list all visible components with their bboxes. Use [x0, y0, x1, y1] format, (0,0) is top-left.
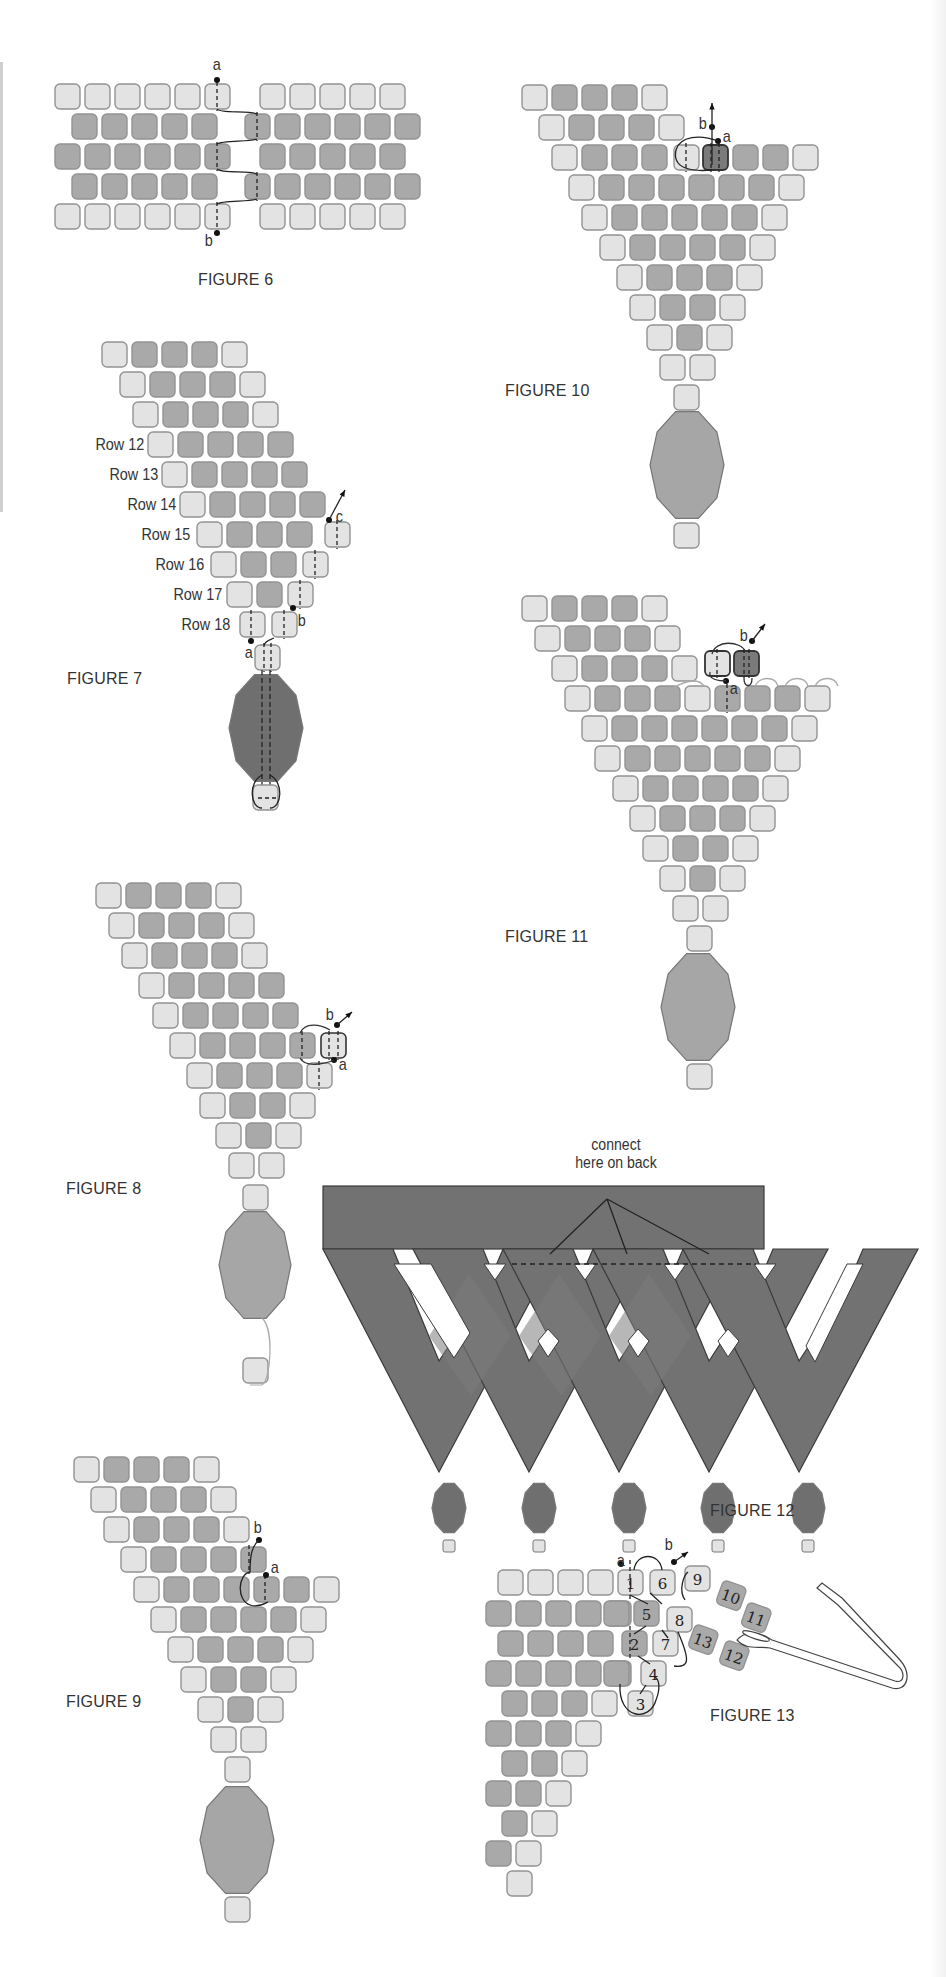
bead [228, 1697, 253, 1722]
bead [630, 806, 655, 831]
bead [271, 1667, 296, 1692]
bead [162, 174, 187, 199]
bead [750, 806, 775, 831]
fig12-callout-line1: connect [563, 1136, 669, 1154]
bead [642, 596, 667, 621]
bead [152, 943, 177, 968]
bead [227, 582, 252, 607]
bead [642, 716, 667, 741]
bead [703, 776, 728, 801]
bead [685, 686, 710, 711]
bead [194, 1457, 219, 1482]
bead [516, 1781, 541, 1806]
bead [211, 1727, 236, 1752]
bead [211, 1547, 236, 1572]
bead [516, 1721, 541, 1746]
bead [805, 686, 830, 711]
figure-8-label: FIGURE 8 [66, 1180, 141, 1198]
bead [254, 1577, 279, 1602]
bead [132, 114, 157, 139]
bead [655, 686, 680, 711]
fig13-point-a: a [617, 1552, 625, 1569]
bead [145, 144, 170, 169]
fig8-point-a: a [339, 1056, 347, 1073]
fig9-point-a: a [271, 1559, 279, 1576]
bead [582, 85, 607, 110]
bead [365, 114, 390, 139]
bead [558, 1570, 583, 1595]
bead [595, 746, 620, 771]
arrow-head-icon [681, 1552, 688, 1558]
drop-bead [200, 1787, 274, 1894]
bead [243, 1003, 268, 1028]
bead [305, 114, 330, 139]
bead [690, 866, 715, 891]
bead [273, 1003, 298, 1028]
bead [582, 145, 607, 170]
bead [229, 1153, 254, 1178]
bead [552, 145, 577, 170]
bead [96, 883, 121, 908]
bead [690, 235, 715, 260]
bead [102, 342, 127, 367]
bead [134, 1457, 159, 1482]
bead [225, 1897, 250, 1922]
bead [192, 114, 217, 139]
bead [277, 1063, 302, 1088]
bead [151, 1487, 176, 1512]
bead [643, 776, 668, 801]
bead [200, 1093, 225, 1118]
bead [486, 1721, 511, 1746]
bead [194, 1517, 219, 1542]
bead [85, 84, 110, 109]
bead [151, 1607, 176, 1632]
bead [194, 1577, 219, 1602]
bead [305, 174, 330, 199]
bead [255, 645, 280, 670]
bead [792, 716, 817, 741]
bead [241, 552, 266, 577]
bead [243, 1358, 268, 1383]
bead [486, 1661, 511, 1686]
bead [164, 1517, 189, 1542]
bead [528, 1631, 553, 1656]
bead [690, 806, 715, 831]
bead [486, 1841, 511, 1866]
bead [241, 1547, 266, 1572]
bead [181, 1487, 206, 1512]
bead [732, 205, 757, 230]
fig7-point-c: c [336, 508, 343, 525]
numbered-bead: 10 [715, 1580, 747, 1612]
bead [271, 1607, 296, 1632]
bead [720, 806, 745, 831]
figure-11-label: FIGURE 11 [505, 928, 588, 946]
bead [720, 866, 745, 891]
bead [139, 973, 164, 998]
bead [181, 1547, 206, 1572]
bead [145, 204, 170, 229]
bead [169, 913, 194, 938]
bead [535, 626, 560, 651]
bead [259, 1153, 284, 1178]
bead [582, 656, 607, 681]
fig6-point-b: b [205, 232, 213, 249]
bead [115, 204, 140, 229]
bead [687, 926, 712, 951]
bead [745, 746, 770, 771]
bead [197, 522, 222, 547]
svg-text:2: 2 [630, 1636, 640, 1654]
fig11-point-a: a [730, 680, 738, 697]
bead [749, 175, 774, 200]
bead [109, 913, 134, 938]
fig9-point-b: b [254, 1519, 262, 1536]
bead [300, 492, 325, 517]
bead [672, 716, 697, 741]
bead [268, 432, 293, 457]
bead [588, 1570, 613, 1595]
bead [677, 325, 702, 350]
bead [569, 115, 594, 140]
bead [732, 716, 757, 741]
bead [211, 1607, 236, 1632]
bead [175, 144, 200, 169]
bead [612, 716, 637, 741]
